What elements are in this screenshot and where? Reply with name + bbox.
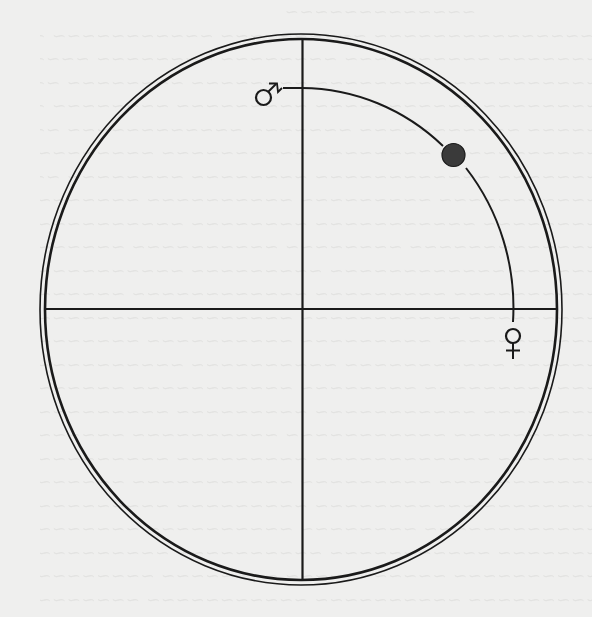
orbit-diagram xyxy=(0,0,592,617)
venus-symbol-icon xyxy=(506,329,520,359)
scanned-page: ~~~~~~~~~~~~~ ~~~~~~~~~~~~~~~ ~~~~~~~~~~… xyxy=(0,0,592,617)
mars-symbol-icon xyxy=(256,84,282,106)
planet-dot xyxy=(442,144,465,167)
orbit-arc-upper xyxy=(283,88,443,146)
orbit-arc-lower xyxy=(466,168,513,322)
